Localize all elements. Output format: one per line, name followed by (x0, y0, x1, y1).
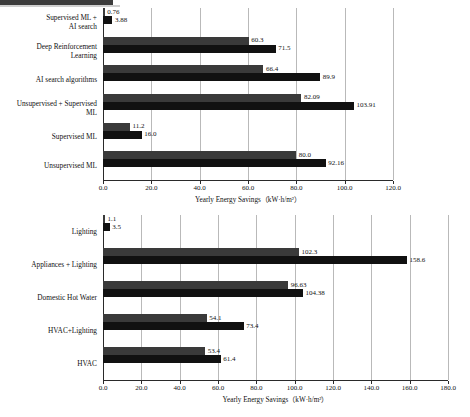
bar-line: 53.4 (103, 347, 470, 355)
bar (103, 102, 354, 110)
bar (103, 37, 249, 45)
axis-tick-label: 120.0 (385, 184, 401, 192)
chart-row: HVAC53.461.4 (0, 347, 470, 380)
chart-building-systems: Lighting1.13.5Appliances + Lighting102.3… (0, 215, 470, 415)
bar (103, 322, 244, 330)
x-axis-ticks: 0.020.040.060.080.0100.0120.0 (103, 181, 393, 193)
axis-tick-label: 0.0 (99, 384, 108, 392)
chart-row: Lighting1.13.5 (0, 215, 470, 248)
cropped-caption-rule-shadow (0, 5, 120, 7)
bar-rows: Supervised ML +AI search0.763.88Deep Rei… (0, 8, 470, 180)
bar (103, 131, 142, 139)
bar-line: 92.16 (103, 159, 470, 167)
category-label: HVAC+Lighting (0, 326, 103, 335)
bar-value-label: 66.4 (263, 66, 278, 73)
bar (103, 151, 296, 159)
axis-tick-label: 180.0 (440, 384, 456, 392)
bar-line: 3.5 (103, 223, 470, 231)
bar-line: 54.1 (103, 314, 470, 322)
category-label: Domestic Hot Water (0, 293, 103, 302)
bar-line: 80.0 (103, 151, 470, 159)
bar-line: 71.5 (103, 45, 470, 53)
axis-tick-label: 80.0 (250, 384, 262, 392)
bar (103, 65, 263, 73)
category-label: Lighting (0, 227, 103, 236)
bar-value-label: 3.88 (112, 17, 127, 24)
bar (103, 45, 276, 53)
plot-area: Supervised ML +AI search0.763.88Deep Rei… (0, 8, 470, 180)
bar-value-label: 60.3 (249, 37, 264, 44)
bar (103, 347, 205, 355)
bar-value-label: 11.2 (130, 123, 145, 130)
bar-value-label: 16.0 (142, 131, 157, 138)
bar (103, 289, 303, 297)
bar-value-label: 82.09 (301, 94, 319, 101)
axis-tick-label: 40.0 (194, 184, 206, 192)
category-label: AI search algorithms (0, 75, 103, 84)
bar-line: 158.6 (103, 256, 470, 264)
bar-rows: Lighting1.13.5Appliances + Lighting102.3… (0, 215, 470, 380)
bar-value-label: 104.38 (303, 290, 325, 297)
bar (103, 281, 288, 289)
chart-row: Domestic Hot Water96.63104.38 (0, 281, 470, 314)
category-label: HVAC (0, 359, 103, 368)
bar (103, 16, 112, 24)
bar-line: 102.3 (103, 248, 470, 256)
bar-value-label: 61.4 (221, 356, 236, 363)
bar-value-label: 102.3 (299, 249, 317, 256)
category-label: Unsupervised ML (0, 161, 103, 170)
axis-tick-label: 60.0 (242, 184, 254, 192)
bar-line: 66.4 (103, 65, 470, 73)
chart-row: Unsupervised ML80.092.16 (0, 151, 470, 180)
chart-row: Supervised ML11.216.0 (0, 123, 470, 152)
axis-tick-label: 0.0 (99, 184, 108, 192)
axis-tick-label: 60.0 (212, 384, 224, 392)
bar (103, 248, 299, 256)
axis-tick-label: 100.0 (287, 384, 303, 392)
bar-line: 89.9 (103, 73, 470, 81)
chart-row: Supervised ML +AI search0.763.88 (0, 8, 470, 37)
bar-group: 54.173.4 (103, 314, 470, 347)
bar-line: 1.1 (103, 215, 470, 223)
plot-area: Lighting1.13.5Appliances + Lighting102.3… (0, 215, 470, 380)
bar-line: 96.63 (103, 281, 470, 289)
bar-group: 82.09103.91 (103, 94, 470, 123)
bar (103, 314, 207, 322)
bar-group: 96.63104.38 (103, 281, 470, 314)
bar-value-label: 3.5 (110, 224, 121, 231)
bar-value-label: 73.4 (244, 323, 259, 330)
bar-value-label: 54.1 (207, 315, 222, 322)
bar-value-label: 103.91 (354, 102, 376, 109)
category-label: Deep ReinforcementLearning (0, 42, 103, 60)
bar (103, 123, 130, 131)
bar (103, 159, 326, 167)
bar-value-label: 80.0 (296, 152, 311, 159)
bar-value-label: 96.63 (288, 282, 306, 289)
bar-line: 0.76 (103, 8, 470, 16)
chart-row: Unsupervised + SupervisedML82.09103.91 (0, 94, 470, 123)
axis-tick-label: 140.0 (363, 384, 379, 392)
bar-value-label: 158.6 (407, 257, 425, 264)
bar (103, 256, 407, 264)
axis-tick-label: 20.0 (145, 184, 157, 192)
bar-group: 53.461.4 (103, 347, 470, 380)
axis-tick-label: 100.0 (337, 184, 353, 192)
bar-line: 104.38 (103, 289, 470, 297)
axis-tick-label: 40.0 (174, 384, 186, 392)
bar-line: 11.2 (103, 123, 470, 131)
category-label: Appliances + Lighting (0, 260, 103, 269)
bar-group: 0.763.88 (103, 8, 470, 37)
bar-line: 82.09 (103, 94, 470, 102)
bar-value-label: 0.76 (105, 9, 120, 16)
chart-row: HVAC+Lighting54.173.4 (0, 314, 470, 347)
axis-tick-label: 160.0 (402, 384, 418, 392)
axis-tick-label: 120.0 (325, 384, 341, 392)
category-label: Supervised ML (0, 132, 103, 141)
bar-value-label: 89.9 (320, 74, 335, 81)
bar-line: 103.91 (103, 102, 470, 110)
x-axis-title: Yearly Energy Savings（kW·h/m²） (103, 194, 393, 204)
bar-group: 102.3158.6 (103, 248, 470, 281)
category-label: Unsupervised + SupervisedML (0, 99, 103, 117)
bar-group: 66.489.9 (103, 65, 470, 94)
bar-value-label: 92.16 (326, 160, 344, 167)
